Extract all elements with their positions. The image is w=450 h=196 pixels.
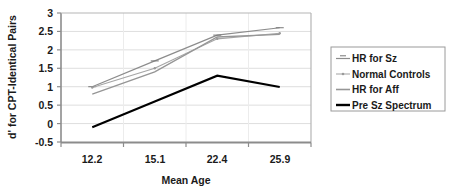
- legend-label-hr-for-sz: HR for Sz: [352, 53, 397, 64]
- y-tick-label-6: 0: [47, 118, 53, 130]
- y-tick-label-7: -0.5: [35, 136, 53, 148]
- legend-marker-normal-controls: [342, 73, 345, 76]
- x-tick-labels: 12.2 15.1 22.4 25.9: [82, 153, 291, 165]
- x-tick-label-3: 25.9: [270, 153, 291, 165]
- legend-label-normal-controls: Normal Controls: [352, 69, 431, 80]
- chart-legend: HR for Sz Normal Controls HR for Aff Pre…: [331, 47, 445, 111]
- y-axis-title: d' for CPT-Identical Pairs: [6, 15, 18, 139]
- y-tick-label-2: 2: [47, 44, 53, 56]
- y-tick-label-1: 2.5: [38, 25, 53, 37]
- y-tick-label-5: 0.5: [38, 99, 53, 111]
- x-tick-label-2: 22.4: [207, 153, 228, 165]
- line-chart: 3 2.5 2 1.5 1 0.5 0 -0.5 12.2 15.1 22.4 …: [0, 0, 450, 196]
- y-tick-labels: 3 2.5 2 1.5 1 0.5 0 -0.5: [35, 7, 53, 148]
- marker-dot-1: [154, 67, 156, 69]
- x-axis-title: Mean Age: [161, 174, 210, 186]
- legend-label-pre-sz-spectrum: Pre Sz Spectrum: [352, 100, 432, 111]
- x-tick-label-1: 15.1: [145, 153, 166, 165]
- y-tick-label-4: 1: [47, 81, 53, 93]
- y-tick-label-0: 3: [47, 7, 53, 19]
- y-tick-label-3: 1.5: [38, 62, 53, 74]
- marker-dot-0: [91, 86, 93, 88]
- legend-label-hr-for-aff: HR for Aff: [352, 84, 400, 95]
- x-tick-label-0: 12.2: [82, 153, 103, 165]
- chart-container: 3 2.5 2 1.5 1 0.5 0 -0.5 12.2 15.1 22.4 …: [0, 0, 450, 196]
